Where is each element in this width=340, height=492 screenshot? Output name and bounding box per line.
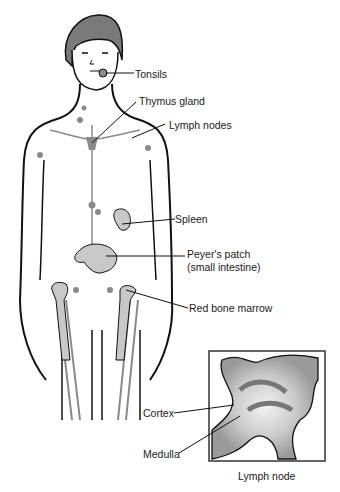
label-tonsils: Tonsils [135,68,167,80]
label-spleen: Spleen [175,213,208,225]
label-thymus-gland: Thymus gland [139,95,205,107]
femur [52,282,70,360]
label-peyers-patch: Peyer's patch [187,248,250,260]
label-lymph-nodes: Lymph nodes [169,119,232,131]
inset-caption: Lymph node [238,470,295,482]
label-small-intestine: (small intestine) [187,261,261,273]
small-intestine [75,244,117,273]
label-medulla: Medulla [143,448,180,460]
spleen [114,209,131,230]
label-cortex: Cortex [143,407,174,419]
body-outline [20,84,172,380]
tonsil [99,69,107,77]
label-red-bone-marrow: Red bone marrow [189,302,272,314]
